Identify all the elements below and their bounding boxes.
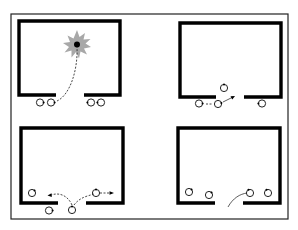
movement-path xyxy=(57,47,77,101)
room-walls xyxy=(21,128,123,203)
room-walls xyxy=(19,21,120,95)
panel-bottom-right xyxy=(178,128,280,207)
diagram-canvas xyxy=(0,0,298,230)
person xyxy=(205,191,212,198)
person xyxy=(86,99,94,106)
panel-top-left xyxy=(19,21,120,106)
person xyxy=(45,207,53,214)
person xyxy=(68,205,75,213)
person xyxy=(28,189,35,196)
outer-frame xyxy=(11,14,288,219)
person xyxy=(257,100,265,107)
person xyxy=(36,99,44,106)
panel-top-right xyxy=(180,23,281,108)
person xyxy=(214,100,222,107)
panel-bottom-left xyxy=(21,128,123,214)
person xyxy=(185,188,192,195)
person xyxy=(92,188,99,196)
arrowhead-icon xyxy=(110,191,115,195)
person xyxy=(96,99,104,106)
person xyxy=(47,99,55,106)
person xyxy=(220,83,227,91)
person xyxy=(246,189,253,197)
movement-path xyxy=(228,193,247,207)
room-walls xyxy=(180,23,281,97)
person xyxy=(195,100,203,107)
person xyxy=(264,189,271,197)
bomb-icon xyxy=(74,42,80,48)
arrowhead-icon xyxy=(48,193,52,197)
